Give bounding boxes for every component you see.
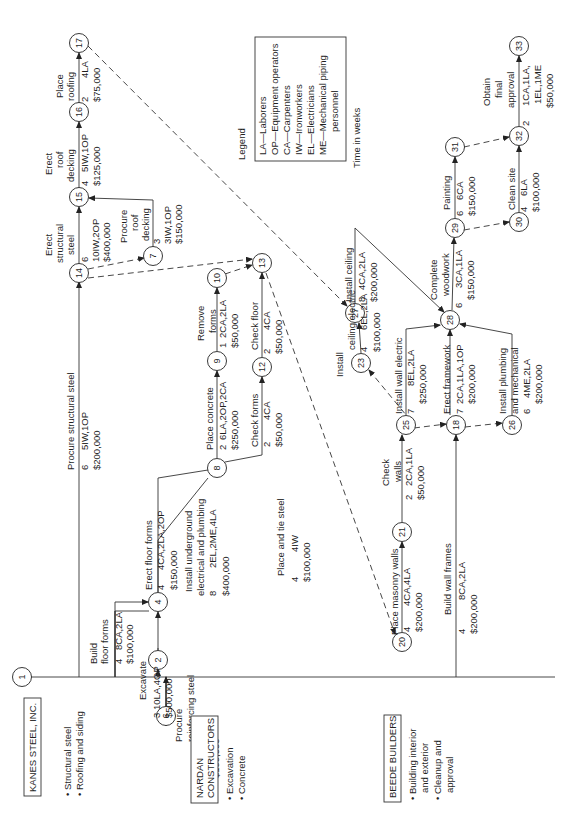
svg-text:1CA,1LA,: 1CA,1LA, xyxy=(520,65,531,106)
svg-text:Build: Build xyxy=(88,643,99,664)
network-diagram: 1 2 4 6 7 8 9 10 12 13 14 15 16 17 18 20… xyxy=(0,0,568,818)
svg-text:$150,000: $150,000 xyxy=(168,550,179,590)
node-4: 4 xyxy=(149,593,168,612)
svg-text:CONSTRUCTORS: CONSTRUCTORS xyxy=(205,718,216,798)
svg-text:3: 3 xyxy=(151,239,162,244)
legend: Legend LA—Laborers OP—Equipment operator… xyxy=(236,37,362,168)
svg-text:Place and tie steel: Place and tie steel xyxy=(275,498,286,576)
node-29: 29 xyxy=(446,219,465,238)
legend-title: Legend xyxy=(236,128,247,160)
svg-text:Erect framework: Erect framework xyxy=(441,345,452,414)
kanes-steel-name: KANES STEEL, INC. xyxy=(27,703,38,792)
svg-text:• Cleanup and: • Cleanup and xyxy=(432,740,443,800)
svg-text:4CA,2LA: 4CA,2LA xyxy=(356,251,367,290)
svg-text:$400,000: $400,000 xyxy=(220,556,231,596)
node-12: 12 xyxy=(253,358,272,377)
svg-text:33: 33 xyxy=(514,41,524,51)
activity-duration: 6 xyxy=(79,465,90,470)
svg-text:30: 30 xyxy=(514,217,524,227)
svg-text:• Concrete: • Concrete xyxy=(236,755,247,800)
svg-text:25: 25 xyxy=(401,420,411,430)
svg-text:1: 1 xyxy=(17,674,27,679)
svg-text:approval: approval xyxy=(505,72,516,108)
svg-text:woodwork: woodwork xyxy=(440,253,451,297)
node-25: 25 xyxy=(397,416,416,435)
svg-text:Remove: Remove xyxy=(195,306,206,341)
svg-text:$125,000: $125,000 xyxy=(91,146,102,186)
svg-text:and mechanical: and mechanical xyxy=(509,347,520,414)
svg-text:4LA: 4LA xyxy=(79,60,90,78)
svg-text:CA—Carpenters: CA—Carpenters xyxy=(281,85,292,155)
svg-text:6: 6 xyxy=(454,211,465,216)
svg-text:2: 2 xyxy=(217,445,228,450)
svg-text:6: 6 xyxy=(521,409,532,414)
svg-text:5IW,1OP: 5IW,1OP xyxy=(79,134,90,172)
svg-text:1EL,1ME: 1EL,1ME xyxy=(532,65,543,104)
svg-text:Install plumbing: Install plumbing xyxy=(497,348,508,414)
svg-text:OP—Equipment operators: OP—Equipment operators xyxy=(269,43,280,155)
svg-text:2: 2 xyxy=(79,97,90,102)
svg-text:$250,000: $250,000 xyxy=(229,410,240,450)
svg-text:4: 4 xyxy=(289,577,300,582)
svg-text:Excavate: Excavate xyxy=(137,661,148,700)
svg-text:Check floor: Check floor xyxy=(249,302,260,350)
svg-text:$100,000: $100,000 xyxy=(530,172,541,212)
svg-text:6LA: 6LA xyxy=(518,178,529,196)
svg-text:$200,000: $200,000 xyxy=(466,364,477,404)
svg-text:4CA,2LA,2OP: 4CA,2LA,2OP xyxy=(155,510,166,570)
svg-text:8: 8 xyxy=(207,591,218,596)
time-note: Time in weeks xyxy=(351,107,362,168)
svg-text:1: 1 xyxy=(217,343,228,348)
svg-text:Complete: Complete xyxy=(428,259,439,300)
svg-text:14: 14 xyxy=(74,268,84,278)
svg-text:$50,000: $50,000 xyxy=(415,466,426,500)
svg-text:walls: walls xyxy=(392,461,403,483)
node-15: 15 xyxy=(70,188,89,207)
svg-text:Place: Place xyxy=(54,74,65,98)
svg-text:Erect: Erect xyxy=(43,152,54,175)
svg-text:personnel: personnel xyxy=(329,90,340,132)
svg-text:4: 4 xyxy=(113,659,124,664)
svg-text:8CA,2LA: 8CA,2LA xyxy=(113,611,124,650)
node-28: 28 xyxy=(441,311,460,330)
node-21: 21 xyxy=(393,523,412,542)
svg-text:$200,000: $200,000 xyxy=(368,262,379,302)
svg-text:8EL,2LA: 8EL,2LA xyxy=(405,349,416,386)
svg-text:26: 26 xyxy=(507,420,517,430)
svg-text:roof: roof xyxy=(129,214,140,231)
beede-name: BEEDE BUILDERS xyxy=(387,716,398,798)
svg-text:3: 3 xyxy=(151,713,162,718)
svg-text:Erect: Erect xyxy=(43,233,54,256)
node-18: 18 xyxy=(447,416,466,435)
contractors: KANES STEEL, INC. • Structural steel • R… xyxy=(24,698,455,803)
node-9: 9 xyxy=(208,352,227,371)
node-14: 14 xyxy=(70,264,89,283)
svg-text:4CA: 4CA xyxy=(261,311,272,330)
svg-text:16: 16 xyxy=(74,107,84,117)
node-26: 26 xyxy=(503,416,522,435)
svg-text:Check: Check xyxy=(380,459,391,486)
svg-text:4: 4 xyxy=(518,207,529,212)
svg-text:• Roofing and siding: • Roofing and siding xyxy=(74,711,85,796)
svg-text:31: 31 xyxy=(450,142,460,152)
svg-text:decking: decking xyxy=(65,149,76,182)
svg-text:17: 17 xyxy=(74,38,84,48)
svg-text:4CA,4LA: 4CA,4LA xyxy=(401,567,412,606)
svg-text:$75,000: $75,000 xyxy=(91,68,102,102)
svg-text:floor forms: floor forms xyxy=(99,619,110,664)
svg-text:$150,000: $150,000 xyxy=(173,204,184,244)
svg-text:$250,000: $250,000 xyxy=(417,364,428,404)
svg-text:3CA,1LA: 3CA,1LA xyxy=(453,249,464,288)
svg-text:6LA,2OP,2CA: 6LA,2OP,2CA xyxy=(217,381,228,440)
svg-text:2CA,2LA: 2CA,2LA xyxy=(217,299,228,338)
svg-text:6: 6 xyxy=(453,303,464,308)
svg-text:Procure: Procure xyxy=(173,709,184,742)
node-1: 1 xyxy=(13,668,32,687)
activity-labels: Procure structural steel 6 5IW,1OP $200,… xyxy=(43,60,555,778)
svg-text:$50,000: $50,000 xyxy=(544,74,555,108)
svg-text:2: 2 xyxy=(520,121,531,126)
svg-text:4: 4 xyxy=(456,629,467,634)
svg-text:10: 10 xyxy=(212,273,222,283)
svg-text:LA—Laborers: LA—Laborers xyxy=(257,96,268,155)
svg-text:roof: roof xyxy=(54,151,65,168)
